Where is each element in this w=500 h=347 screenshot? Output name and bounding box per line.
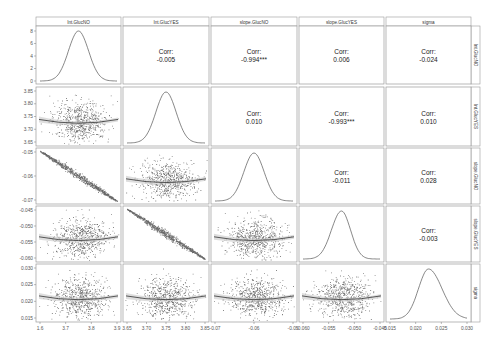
x-tick-label: 3.9 bbox=[114, 326, 121, 331]
y-tick-label: -0.05 bbox=[22, 150, 33, 155]
panel-1-3: Corr:-0.993*** bbox=[299, 87, 384, 146]
y-tick-label: -0.055 bbox=[19, 240, 33, 245]
panel-3-1 bbox=[123, 206, 209, 262]
y-tick-label: 3.80 bbox=[24, 101, 34, 106]
svg-text:slope.GlucYES: slope.GlucYES bbox=[326, 20, 357, 25]
row-strip-int-glucno: Int.GlucNO bbox=[471, 26, 480, 84]
corr-value: -0.011 bbox=[333, 177, 351, 184]
panel-1-2: Corr:0.010 bbox=[211, 87, 297, 146]
y-tick-label: 6 bbox=[30, 41, 33, 46]
x-tick-label: -0.060 bbox=[296, 326, 310, 331]
y-tick-label: -0.060 bbox=[19, 256, 33, 261]
column-strip-slope-glucyes: slope.GlucYES bbox=[299, 17, 384, 26]
row-strip-sigma: sigma bbox=[471, 264, 480, 322]
y-tick-label: 3.85 bbox=[24, 89, 34, 94]
y-tick-label: 0.015 bbox=[21, 316, 33, 321]
y-tick-label: 4 bbox=[30, 54, 33, 59]
corr-value: -0.024 bbox=[419, 56, 438, 63]
x-tick-label: 3.70 bbox=[142, 326, 152, 331]
panel-0-1: Corr:-0.005 bbox=[123, 26, 209, 84]
column-strip-int-glucyes: Int.GlucYES bbox=[123, 17, 209, 26]
x-tick-label: -0.06 bbox=[249, 326, 260, 331]
panel-2-0 bbox=[36, 148, 121, 204]
row-strip-slope-glucno: slope.GlucNO bbox=[471, 148, 480, 204]
svg-text:slope.GlucNO: slope.GlucNO bbox=[240, 20, 269, 25]
y-tick-label: 2 bbox=[30, 66, 33, 71]
panel-4-3 bbox=[299, 264, 384, 322]
x-tick-label: -0.07 bbox=[210, 326, 221, 331]
panel-0-2: Corr:-0.994*** bbox=[211, 26, 297, 84]
x-tick-label: 3.65 bbox=[122, 326, 132, 331]
panel-4-0 bbox=[36, 264, 121, 322]
panel-3-0 bbox=[36, 206, 121, 262]
svg-text:sigma: sigma bbox=[422, 20, 435, 25]
y-tick-label: 0.025 bbox=[21, 282, 33, 287]
corr-value: -0.005 bbox=[157, 56, 176, 63]
panel-4-4 bbox=[386, 264, 471, 322]
x-tick-label: -0.055 bbox=[322, 326, 336, 331]
corr-label: Corr: bbox=[334, 48, 349, 55]
x-tick-label: 3.85 bbox=[200, 326, 210, 331]
x-tick-label: 0.025 bbox=[435, 326, 447, 331]
row-strip-slope-glucyes: slope.GlucYES bbox=[471, 206, 480, 262]
svg-text:Int.GlucYES: Int.GlucYES bbox=[153, 20, 178, 25]
panel-0-0 bbox=[36, 26, 121, 84]
svg-text:Int.GlucNO: Int.GlucNO bbox=[67, 20, 90, 25]
panel-0-4: Corr:-0.024 bbox=[386, 26, 471, 84]
y-tick-label: -0.045 bbox=[19, 208, 33, 213]
y-tick-label: 3.75 bbox=[24, 114, 34, 119]
corr-label: Corr: bbox=[334, 169, 349, 176]
svg-text:slope.GlucYES: slope.GlucYES bbox=[473, 219, 478, 250]
scatterplot-matrix: Int.GlucNOInt.GlucYESslope.GlucNOslope.G… bbox=[0, 0, 500, 347]
panel-1-4: Corr:0.010 bbox=[386, 87, 471, 146]
y-tick-label: -0.050 bbox=[19, 224, 33, 229]
column-strip-int-glucno: Int.GlucNO bbox=[36, 17, 121, 26]
corr-value: 0.010 bbox=[246, 118, 263, 125]
x-tick-label: 3.75 bbox=[161, 326, 171, 331]
corr-label: Corr: bbox=[421, 227, 436, 234]
x-tick-label: 0.030 bbox=[461, 326, 473, 331]
column-strip-sigma: sigma bbox=[386, 17, 471, 26]
corr-label: Corr: bbox=[159, 48, 174, 55]
svg-text:Int.GlucNO: Int.GlucNO bbox=[473, 44, 478, 67]
panel-2-3: Corr:-0.011 bbox=[299, 148, 384, 204]
corr-value: -0.003 bbox=[419, 235, 438, 242]
corr-label: Corr: bbox=[334, 110, 349, 117]
svg-text:slope.GlucNO: slope.GlucNO bbox=[473, 162, 478, 191]
corr-label: Corr: bbox=[421, 48, 436, 55]
x-tick-label: -0.050 bbox=[348, 326, 362, 331]
x-tick-label: 0.020 bbox=[410, 326, 422, 331]
panel-3-2 bbox=[211, 206, 297, 262]
panel-1-0 bbox=[36, 87, 121, 146]
svg-text:Int.GlucYES: Int.GlucYES bbox=[473, 104, 478, 129]
panel-3-4: Corr:-0.003 bbox=[386, 206, 471, 262]
y-tick-label: 0 bbox=[30, 79, 33, 84]
column-strip-slope-glucno: slope.GlucNO bbox=[211, 17, 297, 26]
panel-1-1 bbox=[123, 87, 209, 146]
y-tick-label: 8 bbox=[30, 29, 33, 34]
corr-label: Corr: bbox=[421, 110, 436, 117]
corr-value: 0.006 bbox=[333, 56, 350, 63]
x-tick-label: 0.015 bbox=[384, 326, 396, 331]
x-tick-label: 1.6 bbox=[37, 326, 44, 331]
panel-4-1 bbox=[123, 264, 209, 322]
corr-label: Corr: bbox=[421, 169, 436, 176]
corr-value: -0.993*** bbox=[328, 118, 354, 125]
x-tick-label: 3.80 bbox=[181, 326, 191, 331]
corr-value: 0.010 bbox=[420, 118, 437, 125]
y-tick-label: 0.030 bbox=[21, 266, 33, 271]
corr-value: -0.994*** bbox=[241, 56, 267, 63]
x-tick-label: 3.7 bbox=[62, 326, 69, 331]
y-tick-label: -0.06 bbox=[22, 174, 33, 179]
y-tick-label: 3.70 bbox=[24, 127, 34, 132]
x-tick-label: 3.8 bbox=[88, 326, 95, 331]
svg-text:sigma: sigma bbox=[473, 287, 478, 300]
y-tick-label: -0.07 bbox=[22, 198, 33, 203]
panel-3-3 bbox=[299, 206, 384, 262]
corr-label: Corr: bbox=[247, 48, 262, 55]
corr-label: Corr: bbox=[247, 110, 262, 117]
y-tick-label: 0.020 bbox=[21, 299, 33, 304]
panel-4-2 bbox=[211, 264, 297, 322]
panel-2-2 bbox=[211, 148, 297, 204]
y-tick-label: 3.65 bbox=[24, 140, 34, 145]
